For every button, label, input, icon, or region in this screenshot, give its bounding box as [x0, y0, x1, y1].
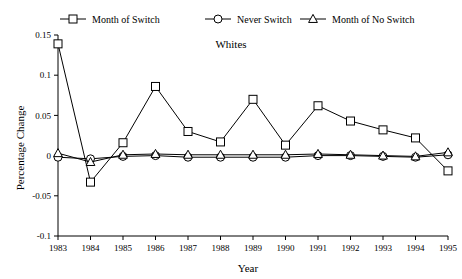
y-tick-label: 0.15: [35, 30, 51, 40]
series-marker-square: [54, 40, 62, 48]
series-marker-square: [217, 138, 225, 146]
percentage-change-line-chart: Month of SwitchNever SwitchMonth of No S…: [0, 0, 462, 279]
y-tick-label: 0: [47, 151, 52, 161]
series-marker-square: [314, 102, 322, 110]
x-tick-label: 1986: [147, 243, 166, 253]
series-marker-square: [249, 95, 257, 103]
legend-item-month-of-switch: Month of Switch: [60, 14, 160, 25]
x-tick-label: 1993: [374, 243, 393, 253]
series-marker-square: [444, 167, 452, 175]
chart-legend: Month of SwitchNever SwitchMonth of No S…: [60, 14, 415, 25]
series-marker-square: [87, 178, 95, 186]
y-tick-label: -0.05: [32, 191, 51, 201]
legend-label: Month of Switch: [92, 14, 160, 25]
series-marker-circle: [214, 15, 222, 23]
series-marker-square: [152, 82, 160, 90]
series-marker-square: [412, 134, 420, 142]
y-tick-label: 0.05: [35, 111, 51, 121]
x-tick-label: 1995: [439, 243, 458, 253]
chart-title: Whites: [215, 38, 246, 50]
legend-label: Never Switch: [237, 14, 292, 25]
series-marker-square: [347, 117, 355, 125]
legend-item-never-switch: Never Switch: [205, 14, 292, 25]
y-tick-label: 0.1: [40, 70, 51, 80]
y-tick-label: -0.1: [37, 231, 51, 241]
chart-container: Month of SwitchNever SwitchMonth of No S…: [0, 0, 462, 279]
series-marker-square: [69, 15, 77, 23]
x-tick-label: 1989: [244, 243, 263, 253]
x-axis-title: Year: [238, 262, 259, 274]
x-tick-label: 1984: [82, 243, 101, 253]
x-tick-label: 1992: [342, 243, 360, 253]
series-marker-square: [282, 141, 290, 149]
series-marker-square: [379, 126, 387, 134]
legend-label: Month of No Switch: [332, 14, 415, 25]
x-tick-label: 1985: [114, 243, 133, 253]
x-tick-label: 1988: [212, 243, 231, 253]
x-tick-label: 1994: [407, 243, 426, 253]
y-axis-title: Percentage Change: [14, 106, 26, 191]
x-tick-label: 1987: [179, 243, 198, 253]
x-tick-label: 1991: [309, 243, 327, 253]
x-tick-label: 1990: [277, 243, 296, 253]
x-tick-label: 1983: [49, 243, 68, 253]
series-marker-square: [119, 139, 127, 147]
series-marker-square: [184, 127, 192, 135]
